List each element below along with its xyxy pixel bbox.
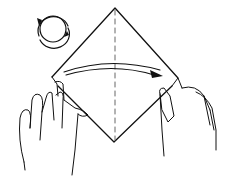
left-hand (20, 77, 89, 175)
origami-diagram: Origami fold step: fold left corner over… (0, 0, 228, 186)
rotate-paper-icon (36, 11, 69, 48)
fold-arrow-icon (64, 63, 163, 78)
